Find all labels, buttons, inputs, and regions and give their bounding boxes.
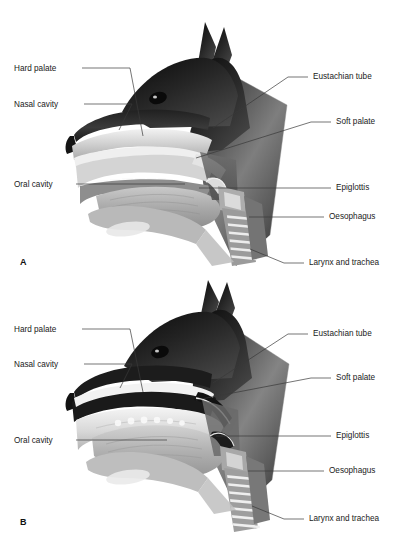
label-hard-palate: Hard palate — [14, 64, 56, 73]
label-soft-palate: Soft palate — [336, 117, 375, 126]
label-epiglottis: Epiglottis — [336, 183, 369, 192]
panel-letter-a: A — [20, 257, 27, 267]
label-oesophagus: Oesophagus — [329, 466, 375, 475]
label-nasal-cavity: Nasal cavity — [14, 360, 58, 369]
panel-letter-b: B — [20, 517, 27, 527]
eye-highlight — [153, 96, 157, 99]
label-soft-palate: Soft palate — [336, 373, 375, 382]
panel-b-illustration — [0, 280, 402, 551]
panel-a: A Hard palate Nasal cavity Oral cavity E… — [0, 0, 402, 271]
label-hard-palate: Hard palate — [14, 325, 56, 334]
panel-a-illustration — [0, 0, 402, 271]
panel-b: B Hard palate Nasal cavity Oral cavity E… — [0, 280, 402, 551]
figure-canvas: A Hard palate Nasal cavity Oral cavity E… — [0, 0, 402, 551]
eye-highlight — [155, 350, 159, 353]
label-epiglottis: Epiglottis — [336, 431, 369, 440]
label-nasal-cavity: Nasal cavity — [14, 100, 58, 109]
label-eustachian-tube: Eustachian tube — [313, 72, 372, 81]
label-larynx-and-trachea: Larynx and trachea — [309, 258, 379, 267]
label-oesophagus: Oesophagus — [329, 212, 375, 221]
label-larynx-and-trachea: Larynx and trachea — [309, 514, 379, 523]
label-oral-cavity: Oral cavity — [14, 436, 53, 445]
label-eustachian-tube: Eustachian tube — [313, 329, 372, 338]
label-oral-cavity: Oral cavity — [14, 180, 53, 189]
